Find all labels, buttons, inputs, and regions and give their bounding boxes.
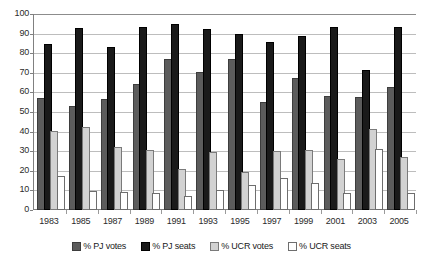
legend-item-label: % PJ seats <box>152 241 195 251</box>
x-axis-tick-mark <box>416 210 417 214</box>
y-axis-tick-mark <box>30 151 33 152</box>
bar-group <box>384 14 416 210</box>
y-axis-tick-label: 0 <box>3 205 29 214</box>
legend-swatch-icon <box>72 242 81 251</box>
y-axis-tick-mark <box>30 14 33 15</box>
y-axis-tick-mark <box>30 34 33 35</box>
bar <box>120 192 128 210</box>
bar-group <box>257 14 289 210</box>
bar-group <box>66 14 98 210</box>
x-axis-tick-mark <box>130 210 131 214</box>
x-axis-labels: 1983198519871989199119931995199719992001… <box>33 216 415 230</box>
y-axis-tick-label: 20 <box>3 166 29 175</box>
y-axis-tick-mark <box>30 112 33 113</box>
bar-group <box>225 14 257 210</box>
x-axis-tick-label: 2005 <box>379 216 419 226</box>
legend-item-label: % PJ votes <box>83 241 126 251</box>
bar-group <box>34 14 66 210</box>
bar-group <box>193 14 225 210</box>
x-axis-tick-mark <box>321 210 322 214</box>
y-axis-tick-mark <box>30 92 33 93</box>
y-axis-tick-label: 30 <box>3 146 29 155</box>
legend-swatch-icon <box>141 242 150 251</box>
y-axis-tick-label: 90 <box>3 29 29 38</box>
x-axis-tick-mark <box>66 210 67 214</box>
x-axis-tick-mark <box>161 210 162 214</box>
y-axis-tick-label: 60 <box>3 87 29 96</box>
legend-swatch-icon <box>288 242 297 251</box>
bar-group <box>289 14 321 210</box>
legend-swatch-icon <box>210 242 219 251</box>
y-axis-tick-mark <box>30 210 33 211</box>
x-axis-tick-mark <box>384 210 385 214</box>
bar-group <box>352 14 384 210</box>
y-axis-tick-label: 100 <box>3 9 29 18</box>
bar <box>248 185 256 210</box>
bar <box>216 190 224 210</box>
bar <box>311 183 319 210</box>
legend-item-label: % UCR votes <box>221 241 273 251</box>
legend-item: % PJ votes <box>72 241 126 251</box>
bar <box>89 191 97 210</box>
bar <box>407 193 415 210</box>
x-axis-tick-mark <box>98 210 99 214</box>
y-axis-tick-label: 50 <box>3 107 29 116</box>
y-axis-tick-label: 40 <box>3 127 29 136</box>
y-axis-tick-mark <box>30 190 33 191</box>
bar <box>152 193 160 210</box>
plot-area <box>33 14 415 210</box>
chart-legend: % PJ votes% PJ seats% UCR votes% UCR sea… <box>0 241 423 251</box>
bar <box>280 178 288 210</box>
y-axis-tick-label: 80 <box>3 48 29 57</box>
legend-item: % UCR seats <box>288 241 351 251</box>
y-axis-tick-label: 70 <box>3 68 29 77</box>
x-axis-tick-mark <box>289 210 290 214</box>
bar <box>343 193 351 210</box>
y-axis-tick-label: 10 <box>3 185 29 194</box>
x-axis-tick-mark <box>257 210 258 214</box>
bar-group <box>98 14 130 210</box>
legend-item: % PJ seats <box>141 241 195 251</box>
bar <box>184 196 192 210</box>
bar <box>375 149 383 210</box>
y-axis-tick-mark <box>30 132 33 133</box>
bar-chart: 0102030405060708090100 19831985198719891… <box>0 0 423 264</box>
bars-layer <box>34 14 416 210</box>
x-axis-tick-mark <box>352 210 353 214</box>
bar-group <box>161 14 193 210</box>
bar-group <box>321 14 353 210</box>
bar <box>57 176 65 210</box>
bar-group <box>130 14 162 210</box>
x-axis-tick-mark <box>193 210 194 214</box>
legend-item: % UCR votes <box>210 241 273 251</box>
x-axis-tick-mark <box>225 210 226 214</box>
y-axis-tick-mark <box>30 171 33 172</box>
legend-item-label: % UCR seats <box>299 241 351 251</box>
y-axis-tick-mark <box>30 53 33 54</box>
y-axis-tick-mark <box>30 73 33 74</box>
